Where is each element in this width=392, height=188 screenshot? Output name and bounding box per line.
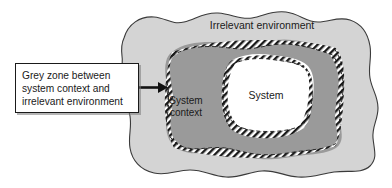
- label-system-context-line1: System: [169, 95, 202, 106]
- callout-text: Grey zone between system context and irr…: [22, 69, 136, 109]
- label-irrelevant-environment: Irrelevant environment: [210, 19, 315, 31]
- diagram-canvas: Irrelevant environment System context Sy…: [0, 0, 392, 188]
- label-system-context-line2: context: [170, 107, 202, 118]
- label-system: System: [248, 89, 283, 101]
- callout-box: Grey zone between system context and irr…: [15, 63, 139, 113]
